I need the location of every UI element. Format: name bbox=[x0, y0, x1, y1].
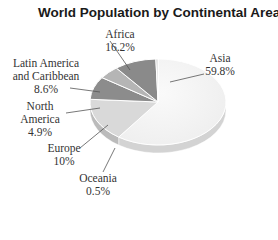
label-name: Africa bbox=[98, 28, 142, 41]
label-north-america: North America 4.9% bbox=[10, 100, 70, 139]
label-value: 8.6% bbox=[1, 83, 91, 96]
label-name-2: America bbox=[10, 113, 70, 126]
label-latin-america: Latin America and Caribbean 8.6% bbox=[1, 57, 91, 96]
label-value: 0.5% bbox=[73, 185, 123, 198]
label-value: 16.2% bbox=[98, 41, 142, 54]
label-name: Asia bbox=[198, 52, 242, 65]
label-value: 59.8% bbox=[198, 65, 242, 78]
label-name: Oceania bbox=[73, 172, 123, 185]
label-oceania: Oceania 0.5% bbox=[73, 172, 123, 198]
label-value: 10% bbox=[39, 155, 89, 168]
label-africa: Africa 16.2% bbox=[98, 28, 142, 54]
label-name: Latin America bbox=[1, 57, 91, 70]
label-asia: Asia 59.8% bbox=[198, 52, 242, 78]
label-europe: Europe 10% bbox=[39, 142, 89, 168]
label-name-2: and Caribbean bbox=[1, 70, 91, 83]
label-name: Europe bbox=[39, 142, 89, 155]
label-value: 4.9% bbox=[10, 126, 70, 139]
label-name: North bbox=[10, 100, 70, 113]
